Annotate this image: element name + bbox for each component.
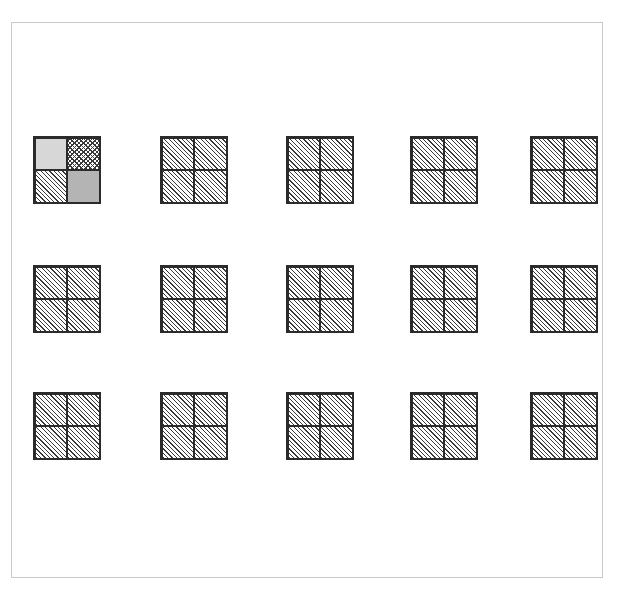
tile-quadrant-top-left [533,395,563,425]
tile [160,136,228,204]
tile [530,392,598,460]
tile-quadrant-bottom-right [565,427,595,457]
tile [410,136,478,204]
tile-quadrant-bottom-left [413,427,443,457]
tile-quadrant-bottom-left [36,300,66,330]
tile-quadrant-bottom-right [68,427,98,457]
tile [410,392,478,460]
tile-quadrant-bottom-right [68,171,98,201]
tile-quadrant-top-right [68,268,98,298]
tile [286,392,354,460]
tile-quadrant-top-right [195,139,225,169]
tile [410,265,478,333]
tile-quadrant-top-left [163,268,193,298]
tile-quadrant-bottom-right [68,300,98,330]
tile-quadrant-top-right [565,268,595,298]
tile-quadrant-bottom-right [321,427,351,457]
tile-quadrant-bottom-left [413,171,443,201]
tile-quadrant-top-right [445,395,475,425]
tile [160,265,228,333]
tile [530,265,598,333]
tile [286,136,354,204]
tile-quadrant-bottom-left [289,300,319,330]
tile [530,136,598,204]
tile-quadrant-top-right [445,268,475,298]
tile-quadrant-top-left [533,139,563,169]
tile-quadrant-top-right [321,139,351,169]
tile-quadrant-top-left [289,268,319,298]
tile-quadrant-bottom-right [445,300,475,330]
tile-quadrant-top-left [413,268,443,298]
tile-quadrant-bottom-right [565,171,595,201]
tile-quadrant-top-right [321,395,351,425]
tile-quadrant-top-right [195,268,225,298]
tile-quadrant-top-left [36,395,66,425]
tile-quadrant-bottom-left [533,300,563,330]
tile-quadrant-top-left [289,395,319,425]
tile-quadrant-top-right [195,395,225,425]
tile-quadrant-bottom-right [321,171,351,201]
tile-quadrant-top-right [565,139,595,169]
tile-quadrant-top-left [36,139,66,169]
tile-quadrant-bottom-left [163,171,193,201]
tile-quadrant-top-left [163,395,193,425]
tile-quadrant-bottom-right [445,171,475,201]
tile-quadrant-bottom-left [289,427,319,457]
tile-quadrant-bottom-right [321,300,351,330]
tile-quadrant-top-left [413,395,443,425]
tile-quadrant-bottom-right [445,427,475,457]
figure-root [0,0,624,604]
tile-quadrant-bottom-left [533,171,563,201]
tile [33,392,101,460]
tile-quadrant-bottom-left [163,427,193,457]
tile [33,136,101,204]
tile-quadrant-top-right [68,139,98,169]
tile-quadrant-bottom-left [36,171,66,201]
tile-quadrant-top-left [289,139,319,169]
tile-quadrant-top-right [565,395,595,425]
tile-quadrant-top-left [36,268,66,298]
tile-quadrant-bottom-left [289,171,319,201]
tile-quadrant-bottom-left [413,300,443,330]
tile-quadrant-bottom-left [533,427,563,457]
tile [160,392,228,460]
tile-quadrant-bottom-right [195,300,225,330]
tile-quadrant-bottom-left [163,300,193,330]
tile-quadrant-top-right [445,139,475,169]
tile-quadrant-top-right [68,395,98,425]
tile-quadrant-top-left [413,139,443,169]
tile-grid [0,0,624,604]
tile-quadrant-bottom-right [195,427,225,457]
tile-quadrant-top-left [533,268,563,298]
tile-quadrant-top-left [163,139,193,169]
tile-quadrant-top-right [321,268,351,298]
tile-quadrant-bottom-left [36,427,66,457]
tile [286,265,354,333]
tile [33,265,101,333]
tile-quadrant-bottom-right [565,300,595,330]
tile-quadrant-bottom-right [195,171,225,201]
